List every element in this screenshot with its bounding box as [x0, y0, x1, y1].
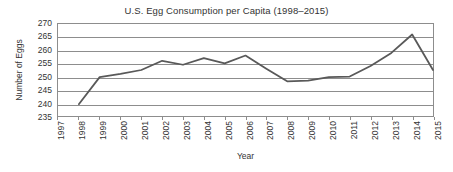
- x-axis-tick-mark: [183, 117, 184, 120]
- x-axis-tick-mark: [392, 117, 393, 120]
- x-axis-title: Year: [57, 151, 434, 161]
- x-axis-tick-label: 2002: [157, 121, 167, 149]
- x-axis-tick-mark: [99, 117, 100, 120]
- x-axis-tick-label-text: 2014: [413, 121, 422, 140]
- x-axis-tick-label-text: 2015: [434, 121, 443, 140]
- x-axis-tick-mark: [413, 117, 414, 120]
- x-axis-tick-label: 2013: [387, 121, 397, 149]
- x-axis-tick-label-text: 2006: [246, 121, 255, 140]
- x-axis-tick-label-text: 2008: [287, 121, 296, 140]
- x-axis-tick-label: 2005: [220, 121, 230, 149]
- x-axis-tick-label: 1999: [94, 121, 104, 149]
- x-axis-tick-label: 2009: [303, 121, 313, 149]
- x-axis-tick-labels: 1997199819992000200120022003200420052006…: [57, 121, 434, 149]
- x-axis-tick-label: 2010: [324, 121, 334, 149]
- x-axis-tick-mark: [266, 117, 267, 120]
- x-axis-tick-mark: [204, 117, 205, 120]
- y-axis-title: Number of Eggs: [12, 23, 26, 117]
- x-axis-tick-label-text: 1999: [99, 121, 108, 140]
- x-axis-tick-label-text: 2010: [329, 121, 338, 140]
- x-axis-tick-mark: [246, 117, 247, 120]
- x-axis-tick-mark: [162, 117, 163, 120]
- x-axis-tick-label-text: 2012: [371, 121, 380, 140]
- x-axis-tick-mark: [78, 117, 79, 120]
- x-axis-tick-label-text: 2003: [183, 121, 192, 140]
- x-axis-tick-mark: [329, 117, 330, 120]
- x-axis-tick-label-text: 2007: [266, 121, 275, 140]
- y-axis-tick-label: 240: [26, 100, 52, 109]
- x-axis-tick-label-text: 2009: [308, 121, 317, 140]
- data-series-line: [58, 24, 433, 116]
- y-axis-tick-label: 255: [26, 59, 52, 68]
- y-axis-tick-label: 265: [26, 32, 52, 41]
- y-axis-tick-label: 235: [26, 113, 52, 122]
- x-axis-tick-label: 2001: [136, 121, 146, 149]
- x-axis-tick-label: 2012: [366, 121, 376, 149]
- x-axis-tick-label: 2004: [199, 121, 209, 149]
- x-axis-tick-label: 1998: [73, 121, 83, 149]
- x-axis-tick-label: 2015: [429, 121, 439, 149]
- x-axis-tick-label: 2000: [115, 121, 125, 149]
- line-chart: U.S. Egg Consumption per Capita (1998–20…: [0, 0, 453, 172]
- x-axis-tick-mark: [57, 117, 58, 120]
- x-axis-tick-mark: [350, 117, 351, 120]
- y-axis-tick-label: 250: [26, 73, 52, 82]
- x-axis-tick-mark: [308, 117, 309, 120]
- x-axis-tick-label: 2007: [261, 121, 271, 149]
- x-axis-tick-mark: [287, 117, 288, 120]
- x-axis-tick-label: 2014: [408, 121, 418, 149]
- x-axis-tick-label: 2006: [241, 121, 251, 149]
- chart-title: U.S. Egg Consumption per Capita (1998–20…: [0, 5, 453, 16]
- x-axis-tick-label-text: 2002: [162, 121, 171, 140]
- x-axis-tick-label-text: 1997: [57, 121, 66, 140]
- y-axis-tick-label: 245: [26, 86, 52, 95]
- x-axis-tick-label-text: 1998: [78, 121, 87, 140]
- x-axis-tick-label-text: 2011: [350, 121, 359, 139]
- x-axis-tick-label-text: 2004: [204, 121, 213, 140]
- x-axis-tick-mark: [434, 117, 435, 120]
- x-axis-tick-label-text: 2005: [225, 121, 234, 140]
- x-axis-tick-label-text: 2000: [120, 121, 129, 140]
- x-axis-tick-label: 1997: [52, 121, 62, 149]
- y-axis-tick-label: 270: [26, 19, 52, 28]
- x-axis-tick-label: 2008: [282, 121, 292, 149]
- x-axis-tick-mark: [371, 117, 372, 120]
- plot-area: [57, 23, 434, 117]
- series-path: [79, 35, 433, 105]
- x-axis-tick-label-text: 2001: [141, 121, 150, 140]
- x-axis-tick-label: 2003: [178, 121, 188, 149]
- x-axis-tick-mark: [225, 117, 226, 120]
- x-axis-tick-label-text: 2013: [392, 121, 401, 140]
- x-axis-tick-label: 2011: [345, 121, 355, 149]
- y-axis-tick-label: 260: [26, 46, 52, 55]
- x-axis-tick-mark: [141, 117, 142, 120]
- y-axis-title-label: Number of Eggs: [14, 39, 24, 100]
- x-axis-tick-mark: [120, 117, 121, 120]
- y-axis-tick-labels: 270265260255250245240235: [26, 23, 54, 117]
